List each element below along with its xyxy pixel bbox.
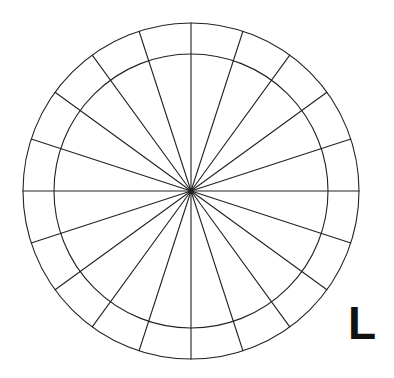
spoke-line — [139, 31, 191, 191]
spoke-line — [191, 191, 290, 327]
spoke-line — [191, 191, 351, 243]
spoke-line — [191, 31, 243, 191]
corner-label-l: L — [348, 300, 376, 346]
spoke-line — [92, 55, 191, 191]
spoke-line — [55, 92, 191, 191]
radial-wheel-diagram — [0, 0, 394, 378]
spoke-line — [191, 55, 290, 191]
spoke-line — [191, 139, 351, 191]
spoke-line — [31, 191, 191, 243]
spoke-line — [139, 191, 191, 351]
spoke-line — [55, 191, 191, 290]
spoke-line — [92, 191, 191, 327]
spoke-line — [191, 191, 327, 290]
spoke-line — [191, 191, 243, 351]
spoke-line — [191, 92, 327, 191]
spoke-line — [31, 139, 191, 191]
diagram-canvas: L — [0, 0, 394, 378]
center-point-dot — [188, 188, 194, 194]
